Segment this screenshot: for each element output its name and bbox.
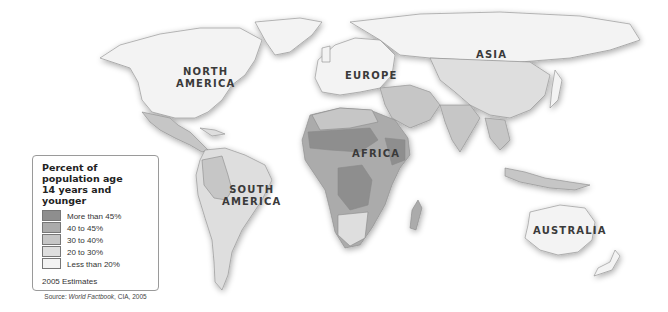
source-prefix: Source:	[44, 293, 68, 300]
legend-item: 40 to 45%	[42, 222, 149, 234]
india	[440, 105, 480, 152]
label-africa: AFRICA	[352, 148, 400, 160]
source-suffix: , CIA, 2005	[114, 293, 147, 300]
greenland	[255, 18, 322, 55]
legend-item: Less than 20%	[42, 258, 149, 270]
legend-title-line2: 14 years and younger	[42, 184, 149, 206]
label-south-america-line2: AMERICA	[222, 196, 281, 208]
source-note: Source: World Factbook, CIA, 2005	[42, 293, 149, 300]
label-north-america: NORTH AMERICA	[176, 66, 235, 90]
uk	[322, 46, 330, 62]
label-australia: AUSTRALIA	[533, 225, 607, 237]
legend-items: More than 45% 40 to 45% 30 to 40% 20 to …	[42, 210, 149, 270]
legend-title-line1: Percent of population age	[42, 162, 149, 184]
source-title: World Factbook	[69, 293, 115, 300]
legend-item: 20 to 30%	[42, 246, 149, 258]
legend-label: Less than 20%	[67, 260, 120, 269]
estimates-note: 2005 Estimates	[42, 277, 149, 286]
legend-item: 30 to 40%	[42, 234, 149, 246]
indonesia	[505, 168, 590, 190]
southeast-asia	[485, 118, 510, 150]
label-asia: ASIA	[476, 49, 507, 61]
label-south-america: SOUTH AMERICA	[222, 184, 281, 208]
japan	[550, 70, 562, 108]
legend: Percent of population age 14 years and y…	[32, 155, 159, 291]
legend-label: 20 to 30%	[67, 248, 103, 257]
swatch-40-to-45	[42, 222, 61, 233]
caribbean	[200, 128, 225, 136]
label-europe: EUROPE	[345, 70, 398, 82]
label-north-america-line2: AMERICA	[176, 78, 235, 90]
new-zealand	[594, 250, 620, 276]
legend-item: More than 45%	[42, 210, 149, 222]
swatch-20-to-30	[42, 246, 61, 257]
label-south-america-line1: SOUTH	[222, 184, 281, 196]
legend-label: More than 45%	[67, 212, 121, 221]
swatch-less-than-20	[42, 258, 61, 269]
legend-label: 30 to 40%	[67, 236, 103, 245]
swatch-30-to-40	[42, 234, 61, 245]
madagascar	[410, 200, 422, 230]
legend-title: Percent of population age 14 years and y…	[42, 162, 149, 206]
swatch-more-than-45	[42, 210, 61, 221]
legend-label: 40 to 45%	[67, 224, 103, 233]
label-north-america-line1: NORTH	[176, 66, 235, 78]
